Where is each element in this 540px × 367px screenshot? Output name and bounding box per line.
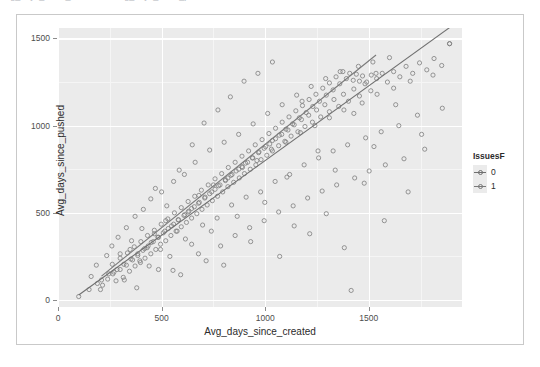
data-point	[267, 131, 271, 135]
data-point	[292, 224, 296, 228]
data-point	[324, 76, 328, 80]
data-point	[247, 149, 251, 153]
data-point	[149, 252, 153, 256]
legend-point-glyph	[478, 184, 483, 189]
data-point	[362, 181, 366, 185]
clipped-caption-strip: Avg_days_since_created vs Avg_days_since…	[0, 0, 540, 14]
data-point	[432, 56, 436, 60]
data-point	[177, 168, 181, 172]
data-point	[273, 126, 277, 130]
data-point	[209, 229, 213, 233]
data-point	[283, 139, 287, 143]
data-point	[237, 132, 241, 136]
data-point	[77, 294, 81, 298]
data-point	[110, 244, 114, 248]
data-point	[352, 111, 356, 115]
data-point	[398, 75, 402, 79]
x-tick-label: 1500	[349, 313, 389, 323]
data-point	[248, 226, 252, 230]
scatter-plot: 050010001500 050010001500 Avg_days_since…	[17, 15, 523, 344]
data-point	[216, 108, 220, 112]
x-tick-label: 1000	[245, 313, 285, 323]
legend-title: IssuesF	[473, 151, 521, 161]
data-point	[98, 287, 102, 291]
data-point	[255, 158, 259, 162]
data-point	[172, 211, 176, 215]
data-point	[352, 87, 356, 91]
data-point	[259, 158, 263, 162]
data-point	[196, 252, 200, 256]
data-point	[333, 168, 337, 172]
data-point	[156, 267, 160, 271]
data-point	[372, 144, 376, 148]
legend-items: 01	[473, 165, 521, 193]
data-point	[300, 99, 304, 103]
x-tick-label: 0	[38, 313, 78, 323]
data-point	[320, 189, 324, 193]
data-point	[342, 246, 346, 250]
legend-item-0: 0	[473, 165, 521, 179]
data-point	[383, 163, 387, 167]
data-layer	[58, 28, 462, 307]
data-point	[206, 183, 210, 187]
data-point	[149, 197, 153, 201]
data-point	[382, 219, 386, 223]
data-point	[230, 172, 234, 176]
data-point	[300, 104, 304, 108]
data-point	[249, 240, 253, 244]
data-point	[369, 89, 373, 93]
data-point	[379, 130, 383, 134]
data-point	[440, 63, 444, 67]
data-point	[159, 190, 163, 194]
clipped-caption-text: Avg_days_since_created vs Avg_days_since…	[0, 0, 214, 1]
data-point	[285, 175, 289, 179]
data-point	[201, 223, 205, 227]
x-tick-mark	[265, 307, 266, 311]
data-point	[140, 226, 144, 230]
data-point	[406, 190, 410, 194]
data-point	[164, 239, 168, 243]
data-point	[193, 194, 197, 198]
data-point	[195, 212, 199, 216]
data-point	[342, 108, 346, 112]
data-point	[222, 140, 226, 144]
data-point	[415, 113, 419, 117]
data-point	[280, 132, 284, 136]
legend-key-swatch	[473, 165, 487, 179]
data-point	[145, 233, 149, 237]
plot-panel	[58, 28, 462, 307]
data-point	[154, 247, 158, 251]
data-point	[392, 86, 396, 90]
data-point	[186, 199, 190, 203]
data-point	[124, 226, 128, 230]
data-point	[171, 268, 175, 272]
data-point	[408, 79, 412, 83]
y-axis-title: Avg_days_since_pushed	[55, 21, 66, 300]
data-point	[100, 283, 104, 287]
data-point	[165, 204, 169, 208]
data-point	[353, 176, 357, 180]
data-point	[106, 277, 110, 281]
data-point	[440, 106, 444, 110]
data-point	[147, 264, 151, 268]
data-point	[302, 163, 306, 167]
data-point	[306, 196, 310, 200]
data-point	[226, 165, 230, 169]
data-point	[385, 80, 389, 84]
data-point	[317, 156, 321, 160]
legend-key-swatch	[473, 179, 487, 193]
data-point	[135, 286, 139, 290]
data-point	[324, 212, 328, 216]
data-point	[351, 78, 355, 82]
data-point	[394, 103, 398, 107]
data-point	[208, 148, 212, 152]
data-point	[425, 68, 429, 72]
data-point	[265, 153, 269, 157]
data-point	[213, 177, 217, 181]
data-point	[190, 242, 194, 246]
x-axis-title: Avg_days_since_created	[58, 326, 462, 337]
data-point	[233, 160, 237, 164]
data-point	[402, 157, 406, 161]
data-point	[204, 259, 208, 263]
data-point	[184, 220, 188, 224]
